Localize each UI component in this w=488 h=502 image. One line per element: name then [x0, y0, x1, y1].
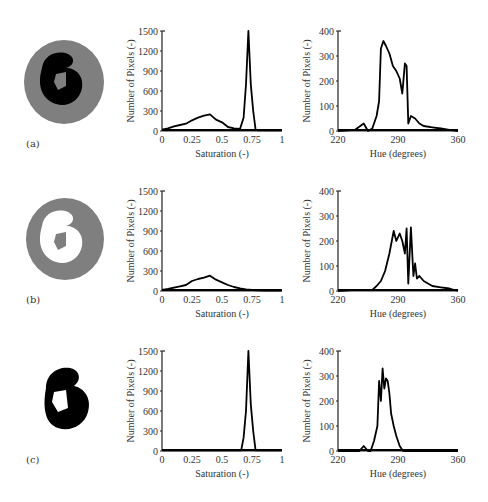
y-tick-label: 200: [319, 76, 334, 87]
x-tick-label: 0.25: [183, 294, 201, 305]
saturation-chart-c: 03006009001200150000.250.50.751Saturatio…: [120, 340, 300, 490]
y-tick-label: 100: [319, 101, 334, 112]
y-tick-label: 0: [153, 126, 158, 137]
histogram-line: [338, 369, 458, 452]
x-tick-label: 1: [280, 454, 285, 465]
y-tick-label: 100: [319, 261, 334, 272]
panel-label-b: (b): [26, 294, 40, 305]
y-tick-label: 400: [319, 346, 334, 357]
y-tick-label: 100: [319, 421, 334, 432]
y-tick-label: 600: [143, 246, 158, 257]
y-tick-label: 300: [319, 211, 334, 222]
y-tick-label: 1500: [138, 346, 158, 357]
x-tick-label: 0.75: [243, 454, 261, 465]
y-tick-label: 900: [143, 386, 158, 397]
y-tick-label: 300: [143, 426, 158, 437]
y-tick-label: 0: [153, 286, 158, 297]
x-tick-label: 290: [391, 134, 406, 145]
saturation-chart-a: 03006009001200150000.250.50.751Saturatio…: [120, 20, 300, 160]
x-axis-label: Hue (degrees): [370, 148, 426, 160]
histogram-line: [162, 31, 282, 130]
x-tick-label: 0: [160, 134, 165, 145]
y-tick-label: 1500: [138, 186, 158, 197]
histogram-line: [162, 276, 282, 291]
x-tick-label: 220: [331, 134, 346, 145]
x-tick-label: 0.5: [216, 294, 229, 305]
y-tick-label: 300: [143, 106, 158, 117]
x-axis-label: Saturation (-): [195, 468, 249, 480]
y-axis-label: Number of Pixels (-): [301, 359, 313, 442]
y-axis-label: Number of Pixels (-): [125, 39, 137, 122]
y-axis-label: Number of Pixels (-): [125, 199, 137, 282]
histogram-line: [338, 227, 458, 291]
y-axis-label: Number of Pixels (-): [125, 359, 137, 442]
y-tick-label: 1200: [138, 366, 158, 377]
x-tick-label: 1: [280, 294, 285, 305]
hue-chart-b: 0100200300400220290360Hue (degrees)Numbe…: [300, 180, 488, 320]
y-tick-label: 1200: [138, 46, 158, 57]
x-tick-label: 220: [331, 294, 346, 305]
histogram-line: [338, 41, 458, 131]
x-tick-label: 360: [451, 454, 466, 465]
x-axis-label: Saturation (-): [195, 148, 249, 160]
x-tick-label: 0.5: [216, 454, 229, 465]
x-tick-label: 290: [391, 294, 406, 305]
cell-image-c: [40, 366, 92, 432]
x-tick-label: 0.75: [243, 294, 261, 305]
x-tick-label: 0: [160, 294, 165, 305]
y-tick-label: 0: [153, 446, 158, 457]
y-tick-label: 600: [143, 86, 158, 97]
y-tick-label: 300: [319, 371, 334, 382]
x-axis-label: Hue (degrees): [370, 308, 426, 320]
cell-image-a: [22, 38, 106, 126]
x-tick-label: 0: [160, 454, 165, 465]
y-tick-label: 900: [143, 66, 158, 77]
x-tick-label: 360: [451, 294, 466, 305]
hue-chart-c: 0100200300400220290360Hue (degrees)Numbe…: [300, 340, 488, 490]
saturation-chart-b: 03006009001200150000.250.50.751Saturatio…: [120, 180, 300, 320]
y-tick-label: 900: [143, 226, 158, 237]
y-tick-label: 1500: [138, 26, 158, 37]
y-tick-label: 600: [143, 406, 158, 417]
x-axis-label: Saturation (-): [195, 308, 249, 320]
y-tick-label: 400: [319, 186, 334, 197]
y-tick-label: 200: [319, 396, 334, 407]
y-axis-label: Number of Pixels (-): [301, 39, 313, 122]
y-tick-label: 400: [319, 26, 334, 37]
x-tick-label: 220: [331, 454, 346, 465]
y-tick-label: 300: [319, 51, 334, 62]
y-axis-label: Number of Pixels (-): [301, 199, 313, 282]
cell-image-b: [24, 196, 106, 282]
panel-label-c: (c): [26, 454, 39, 465]
x-tick-label: 0.25: [183, 454, 201, 465]
y-tick-label: 300: [143, 266, 158, 277]
x-tick-label: 360: [451, 134, 466, 145]
x-tick-label: 0.25: [183, 134, 201, 145]
hue-chart-a: 0100200300400220290360Hue (degrees)Numbe…: [300, 20, 488, 160]
panel-label-a: (a): [26, 138, 40, 149]
x-tick-label: 0.5: [216, 134, 229, 145]
y-tick-label: 200: [319, 236, 334, 247]
x-tick-label: 290: [391, 454, 406, 465]
x-tick-label: 1: [280, 134, 285, 145]
y-tick-label: 1200: [138, 206, 158, 217]
x-axis-label: Hue (degrees): [370, 468, 426, 480]
histogram-line: [162, 351, 282, 450]
x-tick-label: 0.75: [243, 134, 261, 145]
